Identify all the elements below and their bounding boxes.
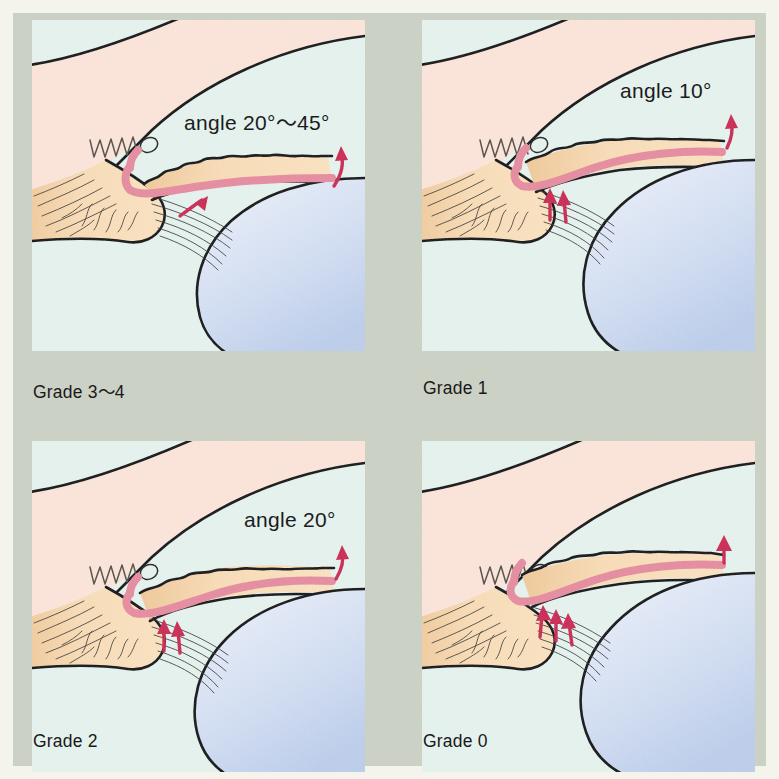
angle-label-grade-3-4: angle 20°〜45°: [184, 111, 330, 134]
panel-grade-0[interactable]: [422, 441, 755, 772]
diagram-grade-0: [422, 441, 755, 772]
panel-grade-3-4[interactable]: angle 20°〜45°: [32, 20, 365, 351]
diagram-grade-1: angle 10°: [422, 20, 755, 351]
figure-root: angle 20°〜45°: [0, 0, 779, 779]
angle-label-grade-1: angle 10°: [620, 79, 712, 102]
caption-grade-3-4: Grade 3〜4: [33, 378, 125, 403]
panel-grade-2[interactable]: angle 20°: [32, 441, 365, 772]
caption-grade-1: Grade 1: [423, 378, 488, 399]
caption-grade-0: Grade 0: [423, 731, 488, 752]
caption-grade-2: Grade 2: [33, 731, 98, 752]
panel-grade-1[interactable]: angle 10°: [422, 20, 755, 351]
diagram-grade-3-4: angle 20°〜45°: [32, 20, 365, 351]
diagram-grade-2: angle 20°: [32, 441, 365, 772]
angle-label-grade-2: angle 20°: [244, 508, 336, 531]
